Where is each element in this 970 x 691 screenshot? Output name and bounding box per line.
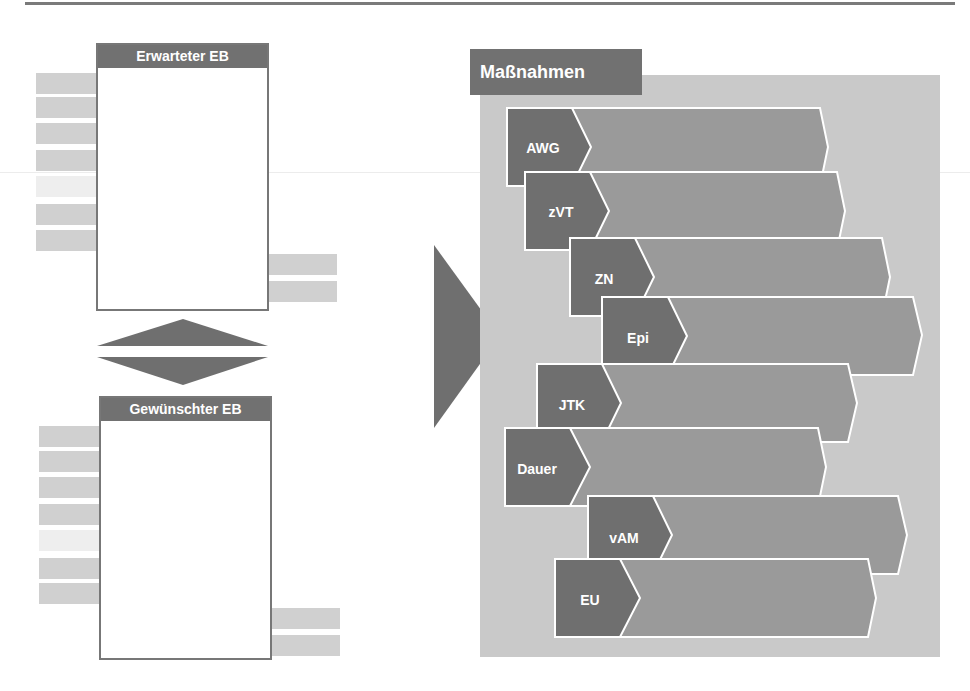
measure-label-dauer: Dauer (517, 461, 557, 477)
measure-label-zvt: zVT (549, 204, 574, 220)
measure-label-awg: AWG (526, 140, 560, 156)
measures-chevrons: AWG zVT ZN Epi JTK Dauer (0, 0, 970, 691)
measure-row-dauer: Dauer (505, 428, 826, 506)
measure-label-epi: Epi (627, 330, 649, 346)
measure-label-vam: vAM (609, 530, 639, 546)
measure-row-eu: EU (555, 559, 876, 637)
measure-label-jtk: JTK (559, 397, 585, 413)
measure-label-zn: ZN (595, 271, 614, 287)
measure-label-eu: EU (580, 592, 599, 608)
